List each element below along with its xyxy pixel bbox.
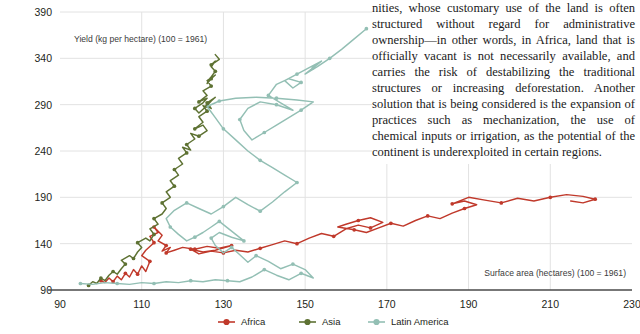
data-point (258, 209, 262, 213)
data-point (295, 181, 299, 185)
data-point (148, 259, 152, 263)
x-axis-tick-label: 150 (296, 298, 314, 310)
data-point (242, 239, 246, 243)
data-point (499, 201, 503, 205)
data-point (152, 217, 156, 221)
data-point (548, 195, 552, 199)
data-point (267, 94, 271, 98)
legend-swatch-dot (223, 319, 229, 325)
x-axis-tick-label: 90 (54, 298, 66, 310)
data-point (197, 100, 201, 104)
y-axis-tick-label: 240 (34, 145, 52, 157)
data-point (311, 66, 315, 70)
data-point (295, 242, 299, 246)
data-point (189, 279, 193, 283)
data-point (164, 244, 168, 248)
data-point (450, 202, 454, 206)
data-point (238, 118, 242, 122)
data-point (124, 262, 128, 266)
data-point (164, 251, 168, 255)
data-point (189, 247, 193, 251)
data-point (226, 279, 230, 283)
data-point (593, 197, 597, 201)
data-point (222, 205, 226, 209)
data-point (463, 207, 467, 211)
data-point (258, 158, 262, 162)
data-point (136, 272, 140, 276)
y-axis-tick-label: 140 (34, 238, 52, 250)
data-point (197, 134, 201, 138)
data-point (124, 271, 128, 275)
y-axis-label: Yield (kg per hectare) (100 = 1961) (74, 34, 207, 44)
article-body-column: nities, whose customary use of the land … (372, 0, 635, 164)
legend-label[interactable]: Asia (322, 316, 341, 327)
data-point (275, 103, 279, 107)
data-point (132, 257, 136, 261)
data-point (262, 268, 266, 272)
data-point (185, 151, 189, 155)
data-point (193, 235, 197, 239)
data-point (136, 241, 140, 245)
data-point (209, 236, 213, 240)
data-point (209, 77, 213, 81)
data-point (185, 201, 189, 205)
data-point (209, 63, 213, 67)
y-axis-tick-label: 190 (34, 191, 52, 203)
data-point (99, 276, 103, 280)
x-axis-tick-label: 190 (460, 298, 478, 310)
data-point (115, 282, 119, 286)
data-point (299, 271, 303, 275)
data-point (222, 127, 226, 131)
data-point (111, 270, 115, 274)
data-point (295, 72, 299, 76)
data-point (365, 27, 369, 31)
x-axis-tick-label: 230 (623, 298, 640, 310)
y-axis-tick-label: 340 (34, 52, 52, 64)
y-axis-tick-label: 290 (34, 99, 52, 111)
data-point (328, 56, 332, 60)
data-point (193, 127, 197, 131)
data-point (152, 233, 156, 237)
data-point (173, 168, 177, 172)
legend-swatch-dot (304, 319, 310, 325)
legend-label[interactable]: Africa (241, 316, 266, 327)
data-point (356, 219, 360, 223)
x-axis-tick-label: 210 (542, 298, 560, 310)
data-point (217, 220, 221, 224)
data-point (369, 226, 373, 230)
data-point (217, 99, 221, 103)
data-point (230, 246, 234, 250)
data-point (213, 69, 217, 73)
data-point (299, 108, 303, 112)
legend-label[interactable]: Latin America (391, 316, 449, 327)
data-point (332, 234, 336, 238)
screenshot-root: 9014019024029034039090110130150170190210… (0, 0, 640, 334)
legend-swatch-dot (373, 319, 379, 325)
data-point (193, 247, 197, 251)
data-point (426, 214, 430, 218)
data-point (152, 282, 156, 286)
data-point (299, 81, 303, 85)
data-point (168, 225, 172, 229)
data-point (205, 109, 209, 113)
data-point (160, 201, 164, 205)
data-point (254, 254, 258, 258)
article-paragraph: nities, whose customary use of the land … (372, 0, 635, 160)
data-point (291, 262, 295, 266)
y-axis-tick-label: 390 (34, 6, 52, 18)
x-axis-tick-label: 110 (133, 298, 150, 310)
data-point (258, 246, 262, 250)
x-axis-tick-label: 170 (378, 298, 396, 310)
data-point (79, 282, 83, 286)
data-point (389, 221, 393, 225)
data-point (152, 241, 156, 245)
series-asia (87, 55, 220, 288)
data-point (173, 184, 177, 188)
data-point (193, 107, 197, 111)
x-axis-tick-label: 130 (215, 298, 233, 310)
chart-legend: AfricaAsiaLatin America (218, 316, 449, 327)
data-point (209, 84, 213, 88)
data-point (275, 96, 279, 100)
data-point (352, 228, 356, 232)
data-point (185, 143, 189, 147)
